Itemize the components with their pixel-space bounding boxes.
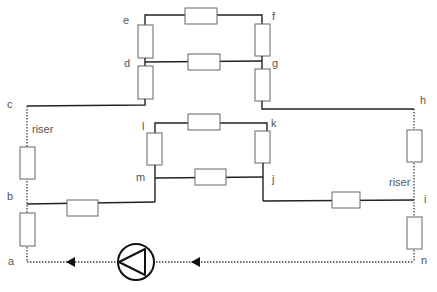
flow-arrow-left-icon — [66, 257, 75, 267]
resistor-j-k — [255, 131, 270, 163]
middle-loop — [27, 114, 414, 216]
label-riser-left: riser — [32, 123, 54, 135]
label-h: h — [420, 94, 426, 106]
resistor-l-k — [188, 114, 220, 130]
return-line — [27, 244, 414, 280]
resistor-e-f — [185, 8, 217, 24]
resistor-d-e — [138, 25, 153, 58]
resistor-a-b — [20, 213, 35, 246]
label-m: m — [136, 171, 145, 183]
upper-loop — [27, 8, 414, 109]
resistor-i-n — [407, 217, 422, 249]
resistor-h-i — [407, 130, 422, 162]
resistor-m-l — [147, 133, 162, 165]
pipe-c-d — [27, 99, 145, 106]
pipe-network-diagram: e f d g c h l k m j b i a n riser riser — [0, 0, 437, 292]
resistor-g-f — [255, 24, 270, 56]
label-f: f — [272, 10, 276, 22]
label-i: i — [424, 193, 426, 205]
node-labels: e f d g c h l k m j b i a n riser riser — [7, 10, 427, 267]
label-e: e — [123, 14, 129, 26]
label-l: l — [142, 120, 144, 132]
resistor-b-c — [20, 147, 35, 179]
resistor-b-m — [67, 200, 98, 216]
label-d: d — [124, 57, 130, 69]
resistor-c-d — [138, 66, 153, 99]
flow-arrow-right-icon — [191, 257, 200, 267]
label-b: b — [7, 190, 13, 202]
resistor-d-g — [188, 54, 220, 70]
label-a: a — [8, 255, 15, 267]
label-riser-right: riser — [389, 176, 411, 188]
label-c: c — [7, 98, 13, 110]
label-g: g — [272, 57, 278, 69]
label-n: n — [421, 254, 427, 266]
resistor-g-h — [255, 69, 270, 101]
resistor-m-j — [195, 169, 226, 185]
resistor-j-i — [332, 192, 360, 208]
label-j: j — [271, 173, 274, 185]
label-k: k — [271, 117, 277, 129]
pump-icon — [118, 244, 154, 280]
pipe-g-h — [262, 101, 414, 109]
